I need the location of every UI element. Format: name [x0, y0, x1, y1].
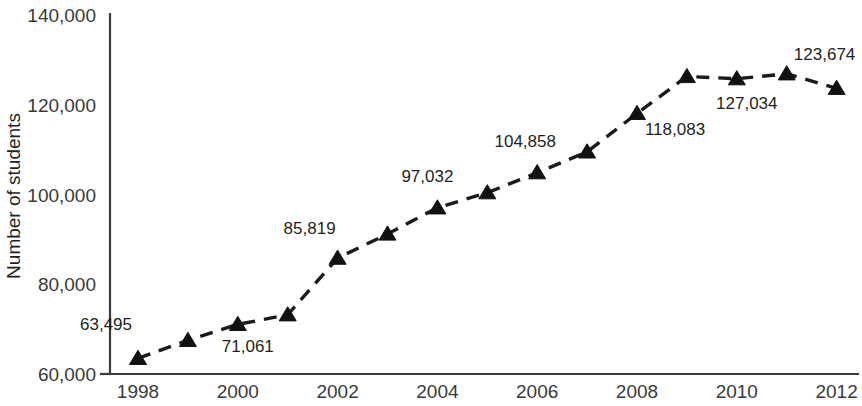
- y-tick-label: 60,000: [38, 364, 96, 385]
- x-tick-label: 2002: [316, 381, 358, 402]
- y-tick-label: 120,000: [27, 95, 96, 116]
- data-point-label: 71,061: [222, 337, 274, 356]
- chart-container: Number of students 140,000120,000100,000…: [0, 0, 862, 406]
- x-tick-label: 1998: [117, 381, 159, 402]
- x-tick-label: 2000: [217, 381, 259, 402]
- data-point-marker: [529, 165, 546, 179]
- data-point-label: 127,034: [716, 94, 777, 113]
- data-point-marker: [429, 200, 446, 214]
- data-point-label: 123,674: [794, 45, 855, 64]
- data-point-marker: [329, 250, 346, 264]
- data-point-label: 97,032: [401, 167, 453, 186]
- data-point-label: 118,083: [645, 120, 705, 139]
- series-line: [138, 74, 837, 359]
- data-point-labels: 63,49571,06185,81997,032104,858118,08312…: [80, 45, 855, 356]
- x-tick-label: 2008: [616, 381, 658, 402]
- x-tick-label: 2012: [815, 381, 857, 402]
- data-point-label: 104,858: [494, 132, 555, 151]
- x-tick-label: 2010: [716, 381, 758, 402]
- line-chart: Number of students 140,000120,000100,000…: [0, 0, 862, 406]
- x-tick-label: 2004: [416, 381, 459, 402]
- y-tick-label: 140,000: [27, 5, 96, 26]
- data-point-label: 63,495: [80, 315, 132, 334]
- x-axis-tick-labels: 19982000200220042006200820102012: [117, 381, 858, 402]
- data-point-marker: [778, 66, 795, 80]
- data-point-marker: [179, 332, 196, 346]
- y-axis-title: Number of students: [3, 113, 24, 279]
- data-point-marker: [678, 68, 695, 82]
- data-point-marker: [379, 226, 396, 240]
- y-tick-label: 80,000: [38, 274, 96, 295]
- x-tick-label: 2006: [516, 381, 558, 402]
- data-point-label: 85,819: [284, 219, 336, 238]
- y-tick-label: 100,000: [27, 185, 96, 206]
